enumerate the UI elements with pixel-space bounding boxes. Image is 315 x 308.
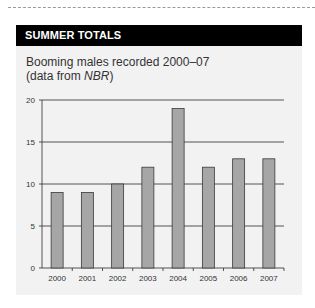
bar-2004 — [172, 108, 184, 268]
x-tick-label: 2004 — [169, 274, 187, 283]
x-tick-label: 2000 — [48, 274, 66, 283]
bar-2002 — [112, 184, 124, 268]
y-tick-label: 0 — [31, 264, 36, 273]
bar-chart: 0510152020002001200220032004200520062007 — [0, 0, 315, 308]
bar-2006 — [233, 159, 245, 268]
x-tick-label: 2005 — [199, 274, 217, 283]
y-tick-label: 10 — [26, 180, 35, 189]
y-tick-label: 5 — [31, 222, 36, 231]
y-tick-label: 15 — [26, 138, 35, 147]
y-tick-label: 20 — [26, 96, 35, 105]
bar-2003 — [142, 167, 154, 268]
bar-2001 — [81, 192, 93, 268]
bar-2007 — [263, 159, 275, 268]
bar-2005 — [202, 167, 214, 268]
x-tick-label: 2007 — [260, 274, 278, 283]
x-tick-label: 2001 — [78, 274, 96, 283]
x-tick-label: 2006 — [230, 274, 248, 283]
x-tick-label: 2003 — [139, 274, 157, 283]
bar-2000 — [51, 192, 63, 268]
x-tick-label: 2002 — [109, 274, 127, 283]
